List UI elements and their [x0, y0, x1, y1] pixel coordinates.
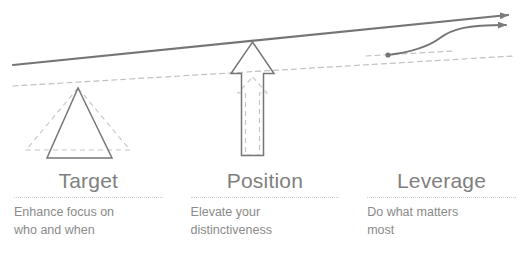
column-position-divider — [191, 197, 340, 198]
column-target-description: Enhance focus on who and when — [0, 203, 177, 239]
column-target-divider — [14, 197, 163, 198]
column-position-heading: Position — [177, 168, 354, 194]
leverage-s-curve — [388, 25, 506, 55]
leverage-origin-dot — [385, 52, 390, 57]
column-position-description: Elevate your distinctiveness — [177, 203, 354, 239]
column-target: Target Enhance focus on who and when — [0, 168, 177, 264]
column-leverage-heading: Leverage — [353, 168, 530, 194]
target-triangle — [47, 88, 112, 158]
column-position: Position Elevate your distinctiveness — [177, 168, 354, 264]
diagram-root: Target Enhance focus on who and when Pos… — [0, 0, 530, 264]
column-leverage-divider — [367, 197, 516, 198]
position-up-arrow — [231, 42, 274, 156]
target-triangle-dashed — [26, 88, 130, 150]
column-leverage: Leverage Do what matters most — [353, 168, 530, 264]
rising-beam-line — [13, 15, 508, 65]
column-leverage-description: Do what matters most — [353, 203, 530, 239]
labels-layer: Target Enhance focus on who and when Pos… — [0, 168, 530, 264]
position-up-arrow-dashed — [238, 77, 267, 155]
column-target-heading: Target — [0, 168, 177, 194]
